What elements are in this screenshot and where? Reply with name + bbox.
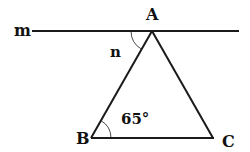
label-line-m: m (14, 21, 31, 40)
angle-arc-n (131, 31, 142, 49)
label-vertex-b: B (76, 129, 90, 148)
label-angle-n: n (110, 43, 121, 61)
label-vertex-a: A (145, 5, 159, 24)
angle-arc-b (101, 121, 111, 138)
label-vertex-c: C (222, 132, 235, 151)
diagram-svg: m A B C n 65° (0, 0, 250, 152)
segment-ac (152, 31, 213, 138)
label-angle-b: 65° (121, 110, 149, 128)
geometry-diagram: m A B C n 65° (0, 0, 250, 152)
